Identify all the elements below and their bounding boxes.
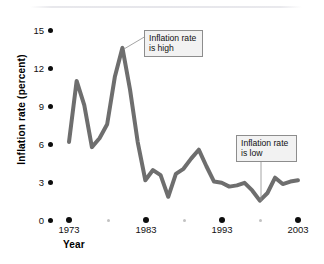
annotation-high-line-2: is high [149,43,198,53]
annotation-inflation-high: Inflation rate is high [144,30,203,57]
annotation-high-line-1: Inflation rate [149,33,198,43]
inflation-rate-line [69,48,298,201]
annotation-inflation-low: Inflation rate is low [236,135,297,162]
chart-figure: Inflation rate (percent) Year 15 12 9 6 … [0,0,324,264]
annotation-low-line-1: Inflation rate [241,138,292,148]
plot-area: Inflation rate (percent) Year 15 12 9 6 … [0,0,324,264]
annotation-low-line-2: is low [241,148,292,158]
leader-line-high [124,36,146,49]
